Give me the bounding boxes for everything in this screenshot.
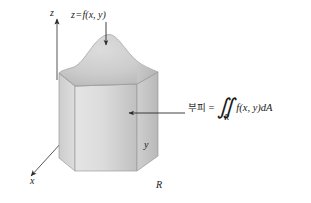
- figure-canvas: z y x R z=f(x, y) 부피=∬Rf(x, y)dA: [0, 0, 311, 203]
- surface-function: f(x, y): [83, 9, 106, 20]
- axis-label-x: x: [30, 176, 34, 186]
- axis-x: [31, 142, 62, 176]
- double-integral-symbol: ∬R: [217, 98, 233, 116]
- axis-label-z: z: [50, 8, 54, 18]
- integral-subscript-r: R: [224, 115, 229, 121]
- solid-region: [59, 72, 158, 171]
- volume-integrand: f(x, y)dA: [233, 103, 272, 114]
- region-label-r: R: [156, 180, 162, 190]
- volume-formula-label: 부피=∬Rf(x, y)dA: [188, 99, 272, 117]
- surface-equals: =: [75, 9, 83, 20]
- volume-equals: =: [205, 103, 217, 114]
- surface-cap: [59, 34, 158, 86]
- axis-label-y: y: [144, 140, 148, 150]
- surface-equation-label: z=f(x, y): [71, 10, 106, 20]
- volume-term: 부피: [188, 103, 205, 113]
